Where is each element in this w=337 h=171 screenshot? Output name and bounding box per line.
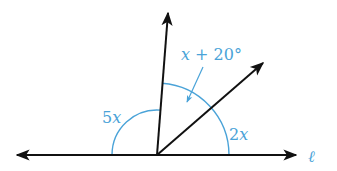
angle-label-x-plus-20: x + 20° [181,45,242,64]
angles-diagram: 5x x + 20° 2x ℓ [0,0,337,171]
line-label-l: ℓ [308,147,315,166]
arc-x-plus-20-and-2x [162,83,229,155]
angle-label-2x: 2x [229,125,248,144]
angle-label-5x: 5x [102,108,121,127]
